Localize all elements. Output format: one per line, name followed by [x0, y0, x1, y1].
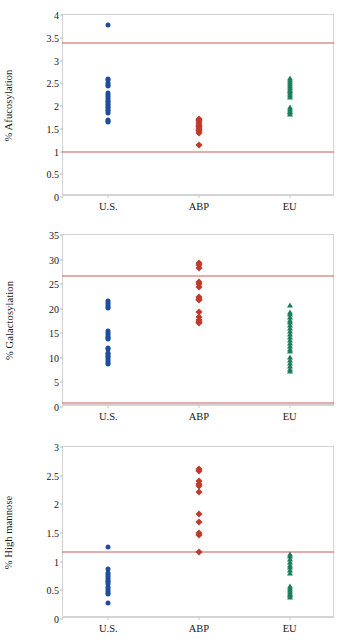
y-tick-mark [60, 106, 63, 107]
specification-limit-line [62, 43, 334, 44]
x-axis-baseline [63, 616, 333, 617]
y-tick-mark [60, 128, 63, 129]
x-tick-label-u-s: U.S. [99, 201, 118, 212]
y-tick-label: 25 [49, 279, 59, 290]
y-tick-label: 0 [54, 614, 59, 625]
y-tick-mark [60, 475, 63, 476]
data-point-eu [287, 369, 293, 374]
y-tick-mark [60, 83, 63, 84]
y-tick-mark [60, 533, 63, 534]
y-tick-mark [60, 447, 63, 448]
specification-limit-line [62, 276, 334, 277]
data-point-u-s [106, 592, 111, 597]
data-point-abp [195, 548, 202, 555]
data-point-abp [195, 320, 202, 327]
y-tick-mark [60, 561, 63, 562]
x-tick-mark [108, 195, 109, 198]
x-tick-label-eu: EU [283, 623, 297, 634]
plot-inner-galactosylation: 05101520253035U.S.ABPEU [63, 235, 333, 405]
y-tick-mark [60, 590, 63, 591]
y-tick-mark [60, 619, 63, 620]
panel-high-mannose: % High mannose 00.511.522.53U.S.ABPEU [0, 434, 353, 644]
y-tick-mark [60, 504, 63, 505]
x-tick-label-u-s: U.S. [99, 623, 118, 634]
y-axis-title-high-mannose: % High mannose [0, 446, 18, 618]
data-point-u-s [106, 600, 111, 605]
y-tick-mark [60, 60, 63, 61]
y-tick-mark [60, 333, 63, 334]
y-axis-title-afucosylation: % Afucosylation [0, 14, 18, 196]
data-point-eu [287, 302, 293, 307]
data-point-u-s [106, 305, 111, 310]
y-tick-mark [60, 407, 63, 408]
y-tick-label: 2.5 [47, 470, 60, 481]
x-tick-label-eu: EU [283, 201, 297, 212]
y-axis-title-galactosylation: % Galactosylation [0, 234, 18, 406]
y-tick-label: 3 [54, 55, 59, 66]
y-tick-label: 0 [54, 402, 59, 413]
data-point-eu [287, 349, 293, 354]
glycan-comparison-figure: % Afucosylation 00.511.522.533.54U.S.ABP… [0, 0, 353, 644]
y-tick-mark [60, 174, 63, 175]
y-tick-label: 10 [49, 352, 59, 363]
data-point-abp [195, 510, 202, 517]
data-point-u-s [106, 22, 111, 27]
y-tick-label: 30 [49, 254, 59, 265]
y-tick-label: 0.5 [47, 585, 60, 596]
x-tick-mark [108, 405, 109, 408]
data-point-eu [287, 595, 293, 600]
data-point-abp [195, 141, 202, 148]
specification-limit-line [62, 151, 334, 152]
data-point-eu [287, 571, 293, 576]
x-tick-label-u-s: U.S. [99, 411, 118, 422]
y-tick-label: 20 [49, 303, 59, 314]
data-point-u-s [106, 84, 111, 89]
x-tick-label-abp: ABP [189, 201, 209, 212]
y-tick-label: 2.5 [47, 78, 60, 89]
x-tick-mark [289, 617, 290, 620]
x-tick-mark [199, 195, 200, 198]
x-tick-label-abp: ABP [189, 623, 209, 634]
plot-inner-afucosylation: 00.511.522.533.54U.S.ABPEU [63, 15, 333, 195]
x-axis-baseline [63, 404, 333, 405]
y-tick-label: 2 [54, 499, 59, 510]
data-point-u-s [106, 110, 111, 115]
y-tick-mark [60, 308, 63, 309]
x-tick-mark [108, 617, 109, 620]
y-tick-mark [60, 235, 63, 236]
y-tick-mark [60, 15, 63, 16]
plot-area-galactosylation: 05101520253035U.S.ABPEU [62, 234, 334, 406]
specification-limit-line [62, 402, 334, 403]
panel-afucosylation: % Afucosylation 00.511.522.533.54U.S.ABP… [0, 0, 353, 222]
y-tick-label: 2 [54, 101, 59, 112]
y-tick-mark [60, 37, 63, 38]
data-point-u-s [106, 120, 111, 125]
y-tick-mark [60, 357, 63, 358]
y-tick-label: 35 [49, 230, 59, 241]
data-point-eu [287, 94, 293, 99]
x-tick-label-eu: EU [283, 411, 297, 422]
y-tick-label: 1 [54, 146, 59, 157]
y-tick-label: 3.5 [47, 32, 60, 43]
panel-galactosylation: % Galactosylation 05101520253035U.S.ABPE… [0, 222, 353, 434]
data-point-abp [195, 518, 202, 525]
plot-inner-high-mannose: 00.511.522.53U.S.ABPEU [63, 447, 333, 617]
y-tick-mark [60, 284, 63, 285]
plot-area-afucosylation: 00.511.522.533.54U.S.ABPEU [62, 14, 334, 196]
y-tick-label: 1 [54, 556, 59, 567]
data-point-abp [195, 489, 202, 496]
data-point-u-s [106, 362, 111, 367]
x-axis-baseline [63, 194, 333, 195]
y-tick-label: 3 [54, 442, 59, 453]
y-tick-label: 15 [49, 328, 59, 339]
y-tick-label: 0.5 [47, 169, 60, 180]
data-point-eu [287, 111, 293, 116]
x-tick-label-abp: ABP [189, 411, 209, 422]
x-tick-mark [199, 617, 200, 620]
y-tick-label: 4 [54, 10, 59, 21]
x-tick-mark [289, 405, 290, 408]
y-tick-mark [60, 259, 63, 260]
y-tick-label: 0 [54, 192, 59, 203]
plot-area-high-mannose: 00.511.522.53U.S.ABPEU [62, 446, 334, 618]
data-point-u-s [106, 337, 111, 342]
